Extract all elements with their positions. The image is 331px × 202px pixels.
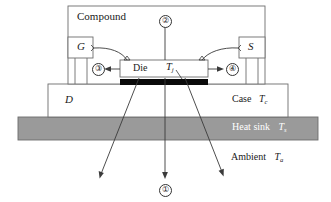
ambient-label-text: Ambient <box>231 151 266 162</box>
case-label-text: Case <box>232 93 251 104</box>
ambient-temp-subscript: a <box>280 156 283 163</box>
ambient-label: Ambient Ta <box>231 152 283 163</box>
drain-label: D <box>65 94 73 105</box>
flow-arrow-one-center-head <box>162 172 168 179</box>
flow-arrow-one-left-head <box>99 171 104 179</box>
heat-sink-temp-subscript: s <box>284 126 287 133</box>
junction-temperature-label: Tj <box>166 62 174 74</box>
case-temp-subscript: c <box>265 98 268 105</box>
path-marker-one: ① <box>159 184 172 197</box>
compound-label: Compound <box>77 11 126 22</box>
path-marker-two: ② <box>159 15 172 28</box>
thermal-cross-section-diagram: Compound G S Die Tj D Case Tc Heat sink … <box>0 0 331 202</box>
flow-arrow-one-right-head <box>219 169 224 177</box>
die-label: Die <box>133 63 147 73</box>
heat-sink-label: Heat sink Ts <box>232 122 287 133</box>
path-marker-three: ③ <box>92 63 105 76</box>
diagram-vector-layer <box>0 0 331 202</box>
junction-temp-subscript: j <box>172 66 174 73</box>
solder-layer <box>120 79 208 85</box>
source-label: S <box>248 41 254 52</box>
heat-sink-label-text: Heat sink <box>232 121 270 132</box>
path-marker-four: ④ <box>226 63 239 76</box>
gate-label: G <box>77 41 85 52</box>
case-label: Case Tc <box>232 94 267 105</box>
